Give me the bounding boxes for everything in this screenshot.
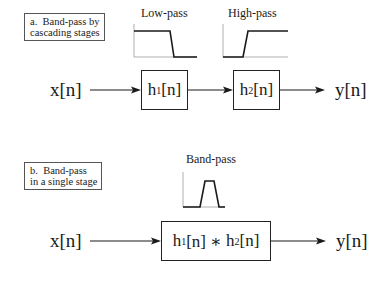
convolved-block: h1[n] ∗ h2[n]: [161, 221, 271, 261]
convolution-operator: [n] ∗: [186, 231, 226, 252]
h2-suffix: [n]: [240, 231, 260, 251]
h1-name: h: [173, 231, 182, 251]
output-signal-b: y[n]: [336, 231, 368, 251]
h2-name: h: [226, 231, 235, 251]
